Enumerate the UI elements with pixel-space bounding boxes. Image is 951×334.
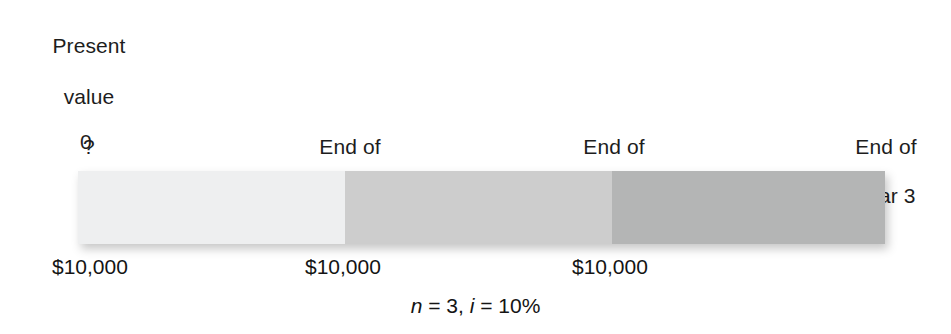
n-symbol: n	[411, 294, 423, 317]
i-symbol: i	[470, 294, 475, 317]
n-value: 3,	[446, 294, 464, 317]
i-equals-sign: =	[480, 294, 492, 317]
cash-flow-amount-year-1: $10,000	[52, 255, 128, 279]
timeline-bar-inner	[78, 171, 885, 244]
year-3-segment	[612, 171, 885, 244]
tick-1-line-1: End of	[288, 135, 412, 160]
n-equals-sign: =	[428, 294, 440, 317]
cash-flow-amount-year-3: $10,000	[572, 255, 648, 279]
cash-flow-amount-year-2: $10,000	[305, 255, 381, 279]
annuity-timeline-diagram: Present value ? 0 End of year 1 End of y…	[0, 0, 951, 334]
present-value-label: Present value ?	[30, 8, 148, 184]
present-value-line-1: Present	[30, 33, 148, 58]
timeline-bar	[78, 171, 885, 244]
year-2-segment	[345, 171, 612, 244]
i-value: 10%	[498, 294, 540, 317]
assumptions-line: n = 3, i = 10%	[0, 294, 951, 318]
tick-3-line-1: End of	[824, 135, 948, 160]
timeline-tick-zero: 0	[46, 130, 126, 155]
year-1-segment	[78, 171, 345, 244]
tick-2-line-1: End of	[552, 135, 676, 160]
present-value-line-2: value	[30, 84, 148, 109]
